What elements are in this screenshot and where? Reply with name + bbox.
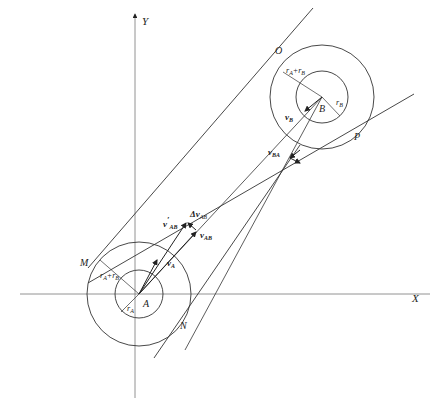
label-rA-plus-rB-at-A: rA+rB (100, 271, 119, 281)
vector-dvAB-arrow (188, 223, 196, 230)
tangent-line-N (154, 145, 300, 358)
label-P: P (353, 131, 360, 142)
label-vB: vB (285, 112, 293, 123)
label-delta-vAB: ΔvAB (189, 209, 207, 220)
x-axis-label: X (411, 292, 420, 304)
vector-vAB-prime-arrow (139, 223, 186, 294)
axes: Y X (20, 14, 430, 398)
label-vAB: vAB (200, 230, 212, 241)
tangent-lines (88, 8, 414, 358)
velocity-obstacle-diagram: Y X A B M N O P (0, 0, 439, 409)
radius-labels: rA rB rA+rB rA+rB (100, 66, 343, 314)
label-B: B (319, 103, 325, 114)
label-M: M (79, 257, 89, 268)
line-B-lower (185, 97, 322, 350)
label-N: N (179, 320, 188, 331)
point-labels: A B M N O P (79, 45, 360, 331)
label-rA-plus-rB-at-B: rA+rB (286, 66, 305, 76)
label-A: A (142, 298, 150, 309)
label-O: O (275, 45, 282, 56)
y-axis-label: Y (142, 15, 150, 27)
label-rA: rA (127, 304, 134, 314)
tangent-line-M-P (88, 94, 414, 283)
label-vAB-prime: v′AB (163, 215, 178, 230)
label-rB: rB (336, 98, 343, 108)
vector-labels: vA v′AB ΔvAB vAB vB vBA (163, 112, 293, 269)
